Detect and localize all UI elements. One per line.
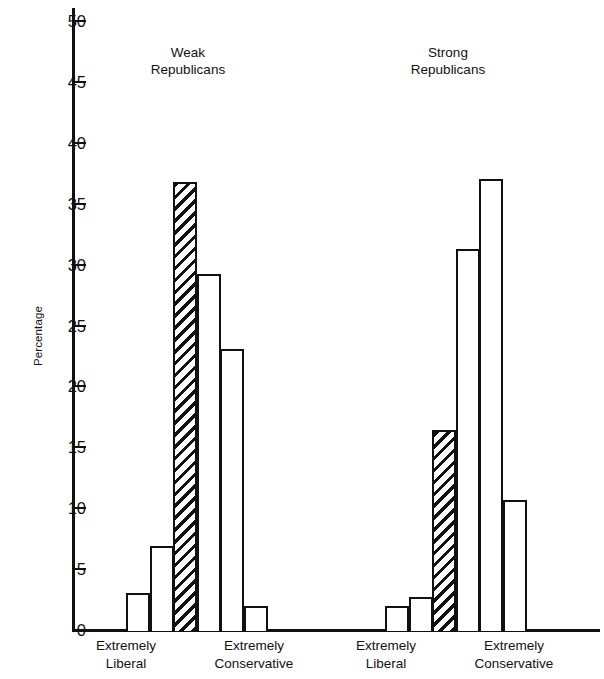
bar-strong-republicans-1 — [385, 606, 409, 631]
bar-strong-republicans-5 — [479, 179, 503, 631]
x-label-strong-extremely-conservative: Extremely Conservative — [446, 637, 582, 673]
bar-strong-republicans-4 — [456, 249, 480, 631]
x-label-strong-extremely-liberal: Extremely Liberal — [330, 637, 442, 673]
bar-weak-republicans-5 — [220, 349, 244, 631]
bar-strong-republicans-3 — [432, 430, 456, 631]
bar-weak-republicans-1 — [126, 593, 150, 631]
panel-title-strong-republicans: Strong Republicans — [378, 44, 518, 78]
bar-weak-republicans-4 — [197, 274, 221, 631]
bar-strong-republicans-6 — [503, 500, 527, 631]
bar-strong-republicans-2 — [409, 597, 433, 631]
panel-title-weak-republicans: Weak Republicans — [118, 44, 258, 78]
x-label-weak-extremely-liberal: Extremely Liberal — [70, 637, 182, 673]
bar-weak-republicans-2 — [150, 546, 174, 631]
plot-area — [0, 0, 604, 679]
bar-chart: Percentage 05101520253035404550 Weak Rep… — [0, 0, 604, 679]
x-label-weak-extremely-conservative: Extremely Conservative — [186, 637, 322, 673]
bar-weak-republicans-6 — [244, 606, 268, 631]
bar-weak-republicans-3 — [173, 182, 197, 631]
